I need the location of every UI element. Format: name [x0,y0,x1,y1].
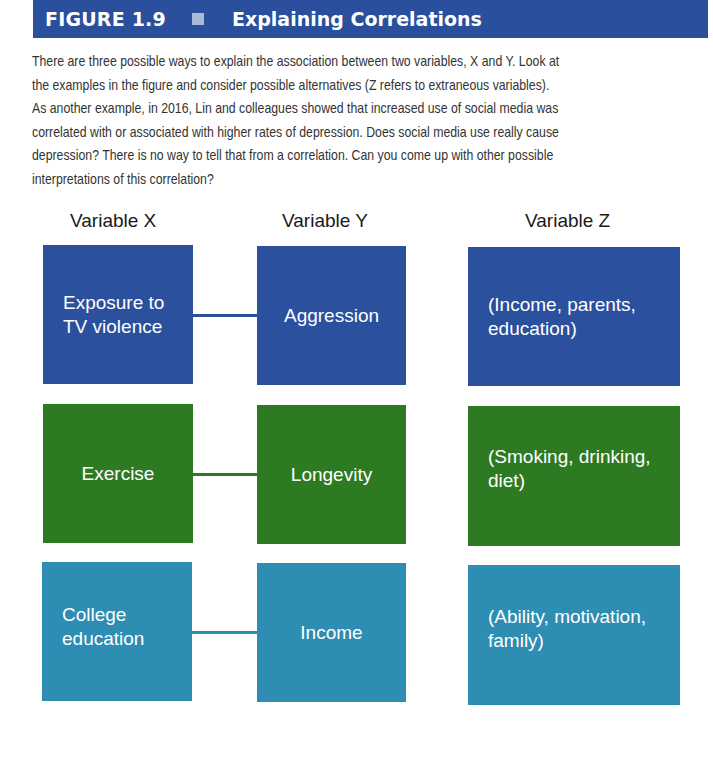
connector-line [193,314,257,317]
box-text: TV violence [63,315,164,339]
figure-title: Explaining Correlations [232,8,482,30]
box-y-longevity: Longevity [257,405,406,544]
figure-number: FIGURE 1.9 [45,8,166,30]
column-label-x: Variable X [70,210,156,232]
box-x-tv-violence: Exposure toTV violence [43,245,193,384]
box-text: education [62,627,144,651]
box-z-smoking-drinking-diet: (Smoking, drinking,diet) [468,406,680,546]
figure-caption: There are three possible ways to explain… [32,50,711,191]
caption-line: As another example, in 2016, Lin and col… [32,97,711,121]
box-text: Exercise [82,462,155,486]
box-y-income: Income [257,563,406,702]
figure-header: FIGURE 1.9 Explaining Correlations [33,0,708,38]
column-label-z: Variable Z [525,210,610,232]
box-text: Exposure to [63,291,164,315]
connector-line [193,473,257,476]
column-label-y: Variable Y [282,210,368,232]
box-text: education) [488,317,636,341]
caption-line: There are three possible ways to explain… [32,50,711,74]
box-x-college-education: Collegeeducation [42,562,192,701]
box-x-exercise: Exercise [43,404,193,543]
caption-line: depression? There is no way to tell that… [32,144,711,168]
caption-line: the examples in the figure and consider … [32,74,711,98]
box-text: Aggression [284,304,379,328]
box-y-aggression: Aggression [257,246,406,385]
box-text: Income [300,621,362,645]
box-text: (Ability, motivation, [488,605,646,629]
box-text: (Smoking, drinking, [488,445,651,469]
box-z-ability-motivation-family: (Ability, motivation,family) [468,565,680,705]
box-text: (Income, parents, [488,293,636,317]
box-text: Longevity [291,463,372,487]
box-text: diet) [488,469,651,493]
caption-line: correlated with or associated with highe… [32,121,711,145]
box-text: family) [488,629,646,653]
box-z-income-parents-education: (Income, parents,education) [468,247,680,386]
connector-line [192,631,257,634]
caption-line: interpretations of this correlation? [32,168,711,192]
box-text: College [62,603,144,627]
square-icon [192,13,204,25]
